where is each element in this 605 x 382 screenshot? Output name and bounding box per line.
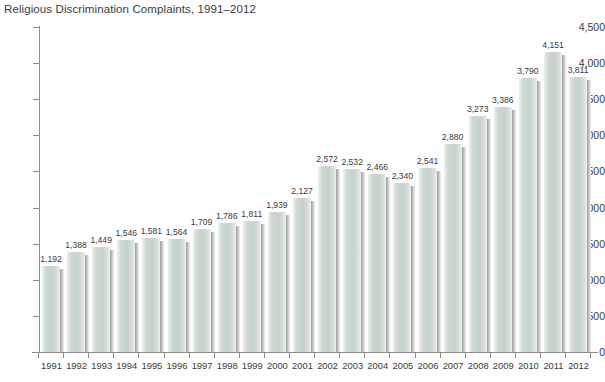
bar-group[interactable]: 1,811 (243, 27, 265, 352)
bar-value-label: 1,939 (257, 200, 297, 210)
x-axis-tick (565, 353, 566, 358)
bar-group[interactable]: 1,388 (67, 27, 89, 352)
x-axis-tick (540, 353, 541, 358)
bar[interactable] (519, 78, 537, 352)
bar-group[interactable]: 1,786 (218, 27, 240, 352)
x-axis-tick (88, 353, 89, 358)
bar[interactable] (168, 239, 186, 352)
bar-value-label: 3,386 (483, 95, 523, 105)
x-axis-tick (440, 353, 441, 358)
bar-group[interactable]: 1,546 (117, 27, 139, 352)
bar[interactable] (544, 52, 562, 352)
x-axis-tick (239, 353, 240, 358)
bar-group[interactable]: 3,790 (519, 27, 541, 352)
bar-value-label: 2,880 (433, 132, 473, 142)
x-axis-tick (138, 353, 139, 358)
x-axis-tick (264, 353, 265, 358)
bar-group[interactable]: 4,151 (544, 27, 566, 352)
bar-value-label: 3,790 (508, 66, 548, 76)
x-axis-tick (113, 353, 114, 358)
bar-group[interactable]: 1,581 (142, 27, 164, 352)
bar-group[interactable]: 1,564 (168, 27, 190, 352)
bar[interactable] (368, 174, 386, 352)
bar[interactable] (569, 77, 587, 352)
bar[interactable] (469, 116, 487, 352)
bar-group[interactable]: 2,466 (368, 27, 390, 352)
x-axis-tick (214, 353, 215, 358)
bar-group[interactable]: 3,273 (469, 27, 491, 352)
bar-value-label: 3,811 (558, 65, 598, 75)
bar-value-label: 2,127 (282, 186, 322, 196)
bar[interactable] (142, 238, 160, 352)
bar[interactable] (444, 144, 462, 352)
bar[interactable] (268, 212, 286, 352)
bar[interactable] (218, 223, 236, 352)
bar-value-label: 2,541 (408, 156, 448, 166)
x-axis-tick (389, 353, 390, 358)
bar[interactable] (393, 183, 411, 352)
x-axis-tick (490, 353, 491, 358)
x-axis-tick (590, 353, 591, 358)
x-axis-tick (189, 353, 190, 358)
bar-group[interactable]: 2,340 (393, 27, 415, 352)
bar-value-label: 1,564 (157, 227, 197, 237)
x-axis-tick (63, 353, 64, 358)
bar-group[interactable]: 1,192 (42, 27, 64, 352)
bar-group[interactable]: 2,541 (419, 27, 441, 352)
bar[interactable] (92, 247, 110, 352)
bar-group[interactable]: 2,532 (343, 27, 365, 352)
x-axis-tick (515, 353, 516, 358)
religious-discrimination-complaints-chart: Religious Discrimination Complaints, 199… (0, 0, 605, 382)
bar[interactable] (67, 252, 85, 352)
bar[interactable] (419, 168, 437, 352)
bar-value-label: 1,811 (232, 209, 272, 219)
bar-value-label: 4,151 (533, 40, 573, 50)
bar[interactable] (117, 240, 135, 352)
bar-group[interactable]: 2,572 (318, 27, 340, 352)
x-axis-tick (339, 353, 340, 358)
x-axis-tick (314, 353, 315, 358)
bar-group[interactable]: 3,811 (569, 27, 591, 352)
bar-group[interactable]: 1,709 (193, 27, 215, 352)
chart-title: Religious Discrimination Complaints, 199… (4, 3, 256, 15)
bar-value-label: 1,192 (31, 254, 71, 264)
bar-group[interactable]: 1,449 (92, 27, 114, 352)
bar[interactable] (318, 166, 336, 352)
bar[interactable] (293, 198, 311, 352)
x-axis-tick (364, 353, 365, 358)
x-axis-tick (465, 353, 466, 358)
bar-group[interactable]: 2,880 (444, 27, 466, 352)
bar-value-label: 2,340 (382, 171, 422, 181)
bar[interactable] (243, 221, 261, 352)
bar[interactable] (343, 169, 361, 352)
x-axis-label: 2012 (562, 360, 596, 371)
x-axis-line (32, 352, 598, 353)
bar[interactable] (494, 107, 512, 352)
x-axis-tick (38, 353, 39, 358)
bar[interactable] (193, 229, 211, 352)
bar-group[interactable]: 2,127 (293, 27, 315, 352)
x-axis-tick (164, 353, 165, 358)
plot-area: 1,1921,3881,4491,5461,5811,5641,7091,786… (39, 27, 599, 352)
x-axis-tick (415, 353, 416, 358)
x-axis-tick (289, 353, 290, 358)
bar[interactable] (42, 266, 60, 352)
